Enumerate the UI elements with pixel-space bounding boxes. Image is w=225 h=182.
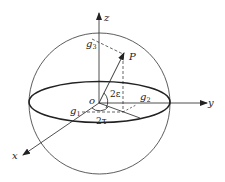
- x-axis-label: x: [12, 150, 18, 161]
- z-axis-label: z: [103, 12, 110, 23]
- angle-2tau-label: 2τ: [96, 116, 107, 126]
- g1-label: g1: [70, 105, 81, 118]
- g3-label: g3: [86, 38, 97, 51]
- point-p-label: P: [128, 51, 136, 62]
- angle-2epsilon-label: 2ε: [110, 89, 121, 99]
- angle-arc-2tau: [92, 107, 108, 111]
- dash-foot-g2: [123, 105, 136, 112]
- origin-label: o: [89, 95, 95, 106]
- poincare-sphere-diagram: z y x o P g3 g2 g1 2ε 2τ: [0, 0, 225, 182]
- y-axis-label: y: [207, 97, 214, 108]
- dash-g3-p: [92, 39, 123, 54]
- g2-label: g2: [140, 91, 151, 104]
